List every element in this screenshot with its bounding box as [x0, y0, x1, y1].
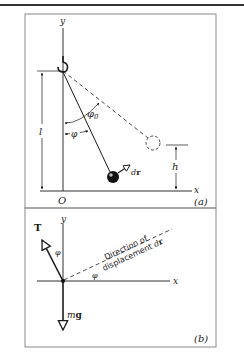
height-label: h	[172, 161, 178, 172]
phi-label-a: φ	[71, 129, 78, 139]
pendulum-string	[63, 72, 110, 172]
phi0-label: φ0	[87, 108, 99, 121]
panel-a: y x O (a) l dr φ0 φ h	[25, 14, 216, 208]
phi-label-b2: φ	[92, 271, 98, 280]
length-label: l	[39, 126, 42, 137]
panel-b-frame	[25, 208, 216, 347]
panel-a-label: (a)	[194, 196, 208, 207]
panel-b-label: (b)	[194, 333, 208, 344]
tension-label: T	[34, 222, 42, 233]
max-swing-bob-dashed	[146, 136, 160, 150]
y-axis-label-b: y	[60, 214, 67, 224]
x-axis-label-a: x	[194, 185, 199, 195]
pendulum-bob	[107, 171, 119, 183]
weight-label: mg	[67, 310, 83, 320]
bob-highlight	[109, 173, 113, 177]
origin-point-b	[61, 279, 65, 283]
panel-a-frame	[25, 14, 216, 208]
panel-b: y x Direction of displacement dr φ T φ m…	[25, 208, 216, 347]
phi-label-b1: φ	[55, 248, 61, 257]
y-axis-label-a: y	[59, 16, 66, 26]
displacement-arrow	[118, 165, 130, 173]
pendulum-figure: y x O (a) l dr φ0 φ h	[0, 0, 244, 360]
tension-vector	[42, 240, 63, 281]
origin-label: O	[58, 195, 66, 206]
x-axis-label-b: x	[173, 276, 178, 286]
displacement-label: dr	[131, 167, 141, 177]
max-swing-dashed-line	[63, 71, 148, 138]
